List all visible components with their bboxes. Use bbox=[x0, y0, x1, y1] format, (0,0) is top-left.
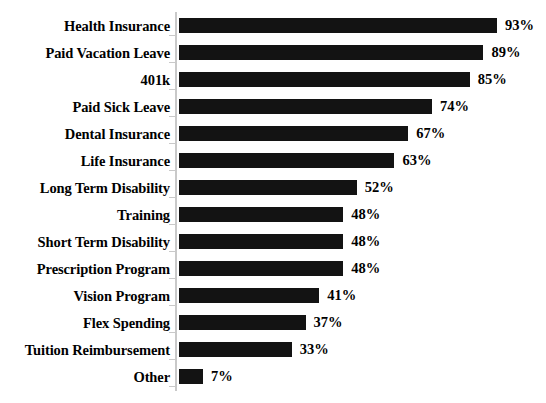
bar bbox=[179, 369, 203, 384]
axis-tick bbox=[169, 62, 176, 63]
bar-value-label: 41% bbox=[327, 287, 356, 304]
bar-row: Health Insurance93% bbox=[0, 14, 546, 41]
bar-track: 74% bbox=[179, 99, 546, 114]
bar-value-label: 85% bbox=[478, 71, 507, 88]
bar bbox=[179, 180, 357, 195]
bar-value-label: 48% bbox=[351, 233, 380, 250]
bar-track: 85% bbox=[179, 72, 546, 87]
bar-track: 63% bbox=[179, 153, 546, 168]
bar bbox=[179, 72, 470, 87]
bar-track: 33% bbox=[179, 342, 546, 357]
bar-value-label: 67% bbox=[416, 125, 445, 142]
chart-title bbox=[0, 0, 546, 11]
bar-value-label: 93% bbox=[505, 17, 534, 34]
category-label: Short Term Disability bbox=[0, 230, 170, 257]
bar-row: Paid Sick Leave74% bbox=[0, 95, 546, 122]
axis-tick bbox=[169, 359, 176, 360]
bar bbox=[179, 207, 343, 222]
bar-value-label: 52% bbox=[365, 179, 394, 196]
axis-tick bbox=[169, 170, 176, 171]
bar-track: 41% bbox=[179, 288, 546, 303]
bar-row: Long Term Disability52% bbox=[0, 176, 546, 203]
bar-track: 48% bbox=[179, 207, 546, 222]
bar-value-label: 63% bbox=[402, 152, 431, 169]
bar-row: Other7% bbox=[0, 365, 546, 392]
bar bbox=[179, 99, 432, 114]
axis-tick bbox=[169, 278, 176, 279]
category-label: Health Insurance bbox=[0, 14, 170, 41]
bar-track: 67% bbox=[179, 126, 546, 141]
bar-track: 48% bbox=[179, 261, 546, 276]
bar-track: 48% bbox=[179, 234, 546, 249]
bar bbox=[179, 288, 319, 303]
bar-row: Life Insurance63% bbox=[0, 149, 546, 176]
bar-row: Tuition Reimbursement33% bbox=[0, 338, 546, 365]
bar bbox=[179, 153, 394, 168]
category-label: Tuition Reimbursement bbox=[0, 338, 170, 365]
bar-value-label: 48% bbox=[351, 206, 380, 223]
category-label: Paid Vacation Leave bbox=[0, 41, 170, 68]
axis-tick bbox=[169, 89, 176, 90]
axis-tick bbox=[169, 305, 176, 306]
axis-tick bbox=[169, 386, 176, 387]
bar-value-label: 48% bbox=[351, 260, 380, 277]
axis-tick bbox=[169, 224, 176, 225]
bar-track: 37% bbox=[179, 315, 546, 330]
bar-row: 401k85% bbox=[0, 68, 546, 95]
bar-track: 89% bbox=[179, 45, 546, 60]
bar-row: Flex Spending37% bbox=[0, 311, 546, 338]
bar bbox=[179, 234, 343, 249]
bar-track: 7% bbox=[179, 369, 546, 384]
bar-row: Vision Program41% bbox=[0, 284, 546, 311]
bar-track: 52% bbox=[179, 180, 546, 195]
bar-value-label: 37% bbox=[314, 314, 343, 331]
category-label: Vision Program bbox=[0, 284, 170, 311]
bar bbox=[179, 126, 408, 141]
category-label: Long Term Disability bbox=[0, 176, 170, 203]
bar-row: Training48% bbox=[0, 203, 546, 230]
bar-row: Dental Insurance67% bbox=[0, 122, 546, 149]
category-label: Flex Spending bbox=[0, 311, 170, 338]
axis-tick bbox=[169, 251, 176, 252]
bar bbox=[179, 315, 306, 330]
bar-row: Prescription Program48% bbox=[0, 257, 546, 284]
bar-row: Paid Vacation Leave89% bbox=[0, 41, 546, 68]
category-label: 401k bbox=[0, 68, 170, 95]
bar-value-label: 7% bbox=[211, 368, 233, 385]
category-label: Paid Sick Leave bbox=[0, 95, 170, 122]
bar-value-label: 74% bbox=[440, 98, 469, 115]
bar-value-label: 89% bbox=[491, 44, 520, 61]
axis-tick bbox=[169, 116, 176, 117]
axis-tick bbox=[169, 143, 176, 144]
bar-value-label: 33% bbox=[300, 341, 329, 358]
bar bbox=[179, 18, 497, 33]
benefits-bar-chart: Health Insurance93%Paid Vacation Leave89… bbox=[0, 0, 546, 403]
axis-tick bbox=[169, 332, 176, 333]
bar-row: Short Term Disability48% bbox=[0, 230, 546, 257]
axis-tick bbox=[169, 35, 176, 36]
axis-tick bbox=[169, 197, 176, 198]
bar bbox=[179, 261, 343, 276]
category-label: Other bbox=[0, 365, 170, 392]
category-label: Prescription Program bbox=[0, 257, 170, 284]
bar bbox=[179, 342, 292, 357]
bar-rows-container: Health Insurance93%Paid Vacation Leave89… bbox=[0, 14, 546, 392]
bar-track: 93% bbox=[179, 18, 546, 33]
bar bbox=[179, 45, 483, 60]
category-label: Life Insurance bbox=[0, 149, 170, 176]
category-label: Training bbox=[0, 203, 170, 230]
category-label: Dental Insurance bbox=[0, 122, 170, 149]
